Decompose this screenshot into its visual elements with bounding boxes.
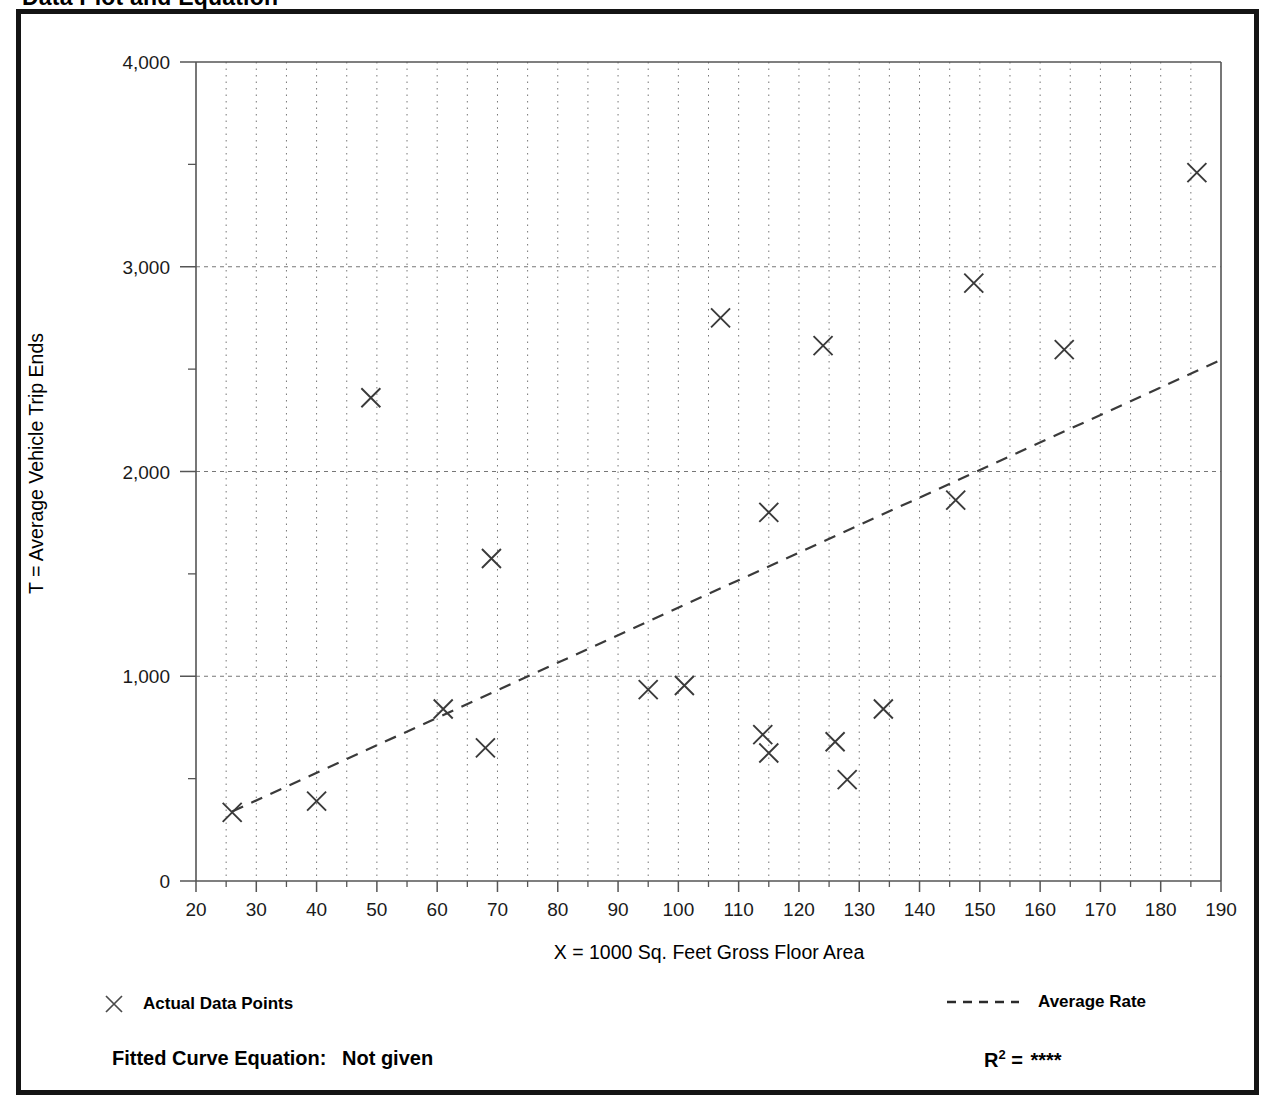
r-squared-value: ****: [1031, 1049, 1062, 1071]
fitted-curve-equation-label: Fitted Curve Equation:: [112, 1047, 326, 1069]
legend-item-average-rate: Average Rate: [945, 992, 1146, 1012]
r-squared-label: R: [984, 1049, 998, 1071]
legend-label-average-rate: Average Rate: [1038, 992, 1146, 1012]
r-squared-statistic: R2 = ****: [984, 1047, 1062, 1072]
r-squared-equals: =: [1011, 1049, 1023, 1071]
r-squared-exponent: 2: [998, 1047, 1005, 1062]
x-axis-title: X = 1000 Sq. Feet Gross Floor Area: [196, 941, 1222, 964]
legend-label-actual-data-points: Actual Data Points: [143, 994, 293, 1014]
legend-item-actual-data-points: Actual Data Points: [102, 992, 293, 1016]
x-marker-icon: [102, 992, 126, 1016]
dashed-line-icon: [945, 995, 1021, 1009]
figure-frame: [16, 9, 1259, 1095]
fitted-curve-equation-value: Not given: [342, 1047, 433, 1069]
y-axis-title: T = Average Vehicle Trip Ends: [25, 314, 48, 614]
fitted-curve-equation: Fitted Curve Equation: Not given: [112, 1047, 433, 1070]
